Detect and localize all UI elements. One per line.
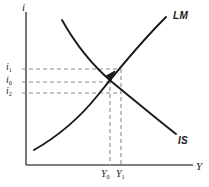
horizontal-axis-label: Y <box>196 161 202 172</box>
vertical-axis-label: i <box>22 2 25 13</box>
is-lm-figure: i Y LM IS i1 i0 i2 Y0 Y1 <box>0 0 209 187</box>
tick-sub-Y1: 1 <box>122 173 125 180</box>
is-lm-plot <box>0 0 209 187</box>
tick-base-Y0: Y <box>101 168 107 179</box>
tick-sub-Y0: 0 <box>107 173 110 180</box>
lm-curve-label: LM <box>173 11 188 21</box>
tick-sub-i2: 2 <box>9 90 12 97</box>
tick-sub-i0: 0 <box>9 79 12 86</box>
tick-label-Y1: Y1 <box>116 169 125 179</box>
tick-base-Y1: Y <box>116 168 122 179</box>
lm-curve <box>34 17 166 150</box>
tick-label-i2: i2 <box>6 86 12 96</box>
tick-label-i0: i0 <box>6 75 12 85</box>
tick-label-Y0: Y0 <box>101 169 110 179</box>
is-curve-label: IS <box>178 136 188 146</box>
tick-sub-i1: 1 <box>9 66 12 73</box>
tick-label-i1: i1 <box>6 62 12 72</box>
